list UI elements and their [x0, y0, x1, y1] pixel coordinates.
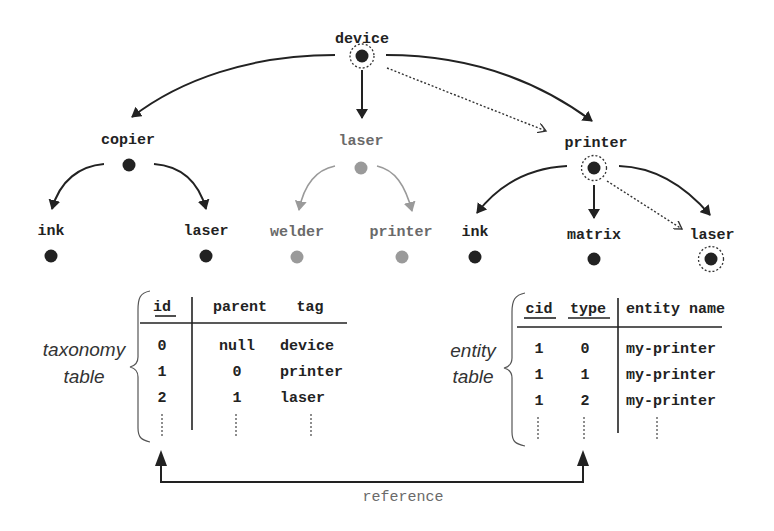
node-copier-laser — [200, 250, 213, 263]
entity-cell: my-printer — [626, 393, 716, 410]
entity-cell: 1 — [534, 341, 543, 358]
node-matrix — [588, 253, 601, 266]
taxonomy-table: taxonomy table id parent tag 0 null devi… — [43, 291, 347, 442]
taxonomy-cell: 1 — [232, 390, 241, 407]
node-welder — [291, 251, 304, 264]
edge-copier-laser — [154, 164, 206, 209]
taxonomy-caption-line1: taxonomy — [43, 339, 127, 360]
edge-printer-laser-dotted — [607, 181, 682, 229]
taxonomy-header-parent: parent — [213, 299, 267, 316]
edge-device-copier — [132, 55, 335, 117]
node-label-matrix: matrix — [567, 227, 621, 244]
taxonomy-cell: laser — [280, 390, 325, 407]
reference-arrowhead-entity — [577, 450, 589, 466]
entity-cell: my-printer — [626, 367, 716, 384]
node-label-copier-laser: laser — [183, 223, 228, 240]
edge-laser-welder — [299, 166, 335, 210]
entity-brace — [504, 293, 525, 446]
entity-cell: 0 — [580, 341, 589, 358]
taxonomy-cell: 0 — [232, 364, 241, 381]
node-label-copier-ink: ink — [37, 223, 64, 240]
node-copier — [123, 159, 136, 172]
taxonomy-diagram: device copier ink laser laser welder pri… — [0, 0, 774, 531]
node-printer-ink — [469, 251, 482, 264]
edge-printer-laser — [619, 166, 710, 215]
node-printer — [582, 156, 607, 181]
taxonomy-cell: 0 — [157, 338, 166, 355]
entity-cell: 1 — [534, 393, 543, 410]
reference-arrowhead-taxonomy — [155, 450, 167, 466]
node-laser-printer — [396, 251, 409, 264]
taxonomy-header-tag: tag — [296, 299, 323, 316]
taxonomy-cell: null — [219, 338, 255, 355]
reference-label: reference — [362, 489, 443, 506]
node-label-device: device — [335, 31, 389, 48]
entity-caption-line2: table — [452, 366, 493, 387]
node-printer-laser — [699, 247, 724, 272]
taxonomy-cell: 1 — [157, 364, 166, 381]
entity-cell: my-printer — [626, 341, 716, 358]
edge-laser-printer — [377, 166, 412, 211]
taxonomy-brace — [130, 291, 150, 442]
node-laser-muted — [355, 162, 368, 175]
node-copier-ink — [45, 250, 58, 263]
taxonomy-cell: printer — [280, 364, 343, 381]
entity-header-type: type — [570, 301, 606, 318]
edge-copier-ink — [52, 164, 104, 209]
taxonomy-cell: device — [280, 338, 334, 355]
entity-cell: 1 — [580, 367, 589, 384]
edge-printer-ink — [477, 166, 567, 213]
node-label-printer-laser: laser — [689, 227, 734, 244]
edge-device-printer-dotted — [387, 68, 546, 131]
node-label-printer-ink: ink — [461, 224, 488, 241]
edge-device-printer — [386, 55, 592, 121]
entity-caption-line1: entity — [450, 340, 497, 361]
taxonomy-caption-line2: table — [63, 366, 104, 387]
node-label-copier: copier — [101, 132, 155, 149]
node-label-printer: printer — [564, 135, 627, 152]
entity-header-cid: cid — [525, 301, 552, 318]
node-label-welder: welder — [270, 224, 324, 241]
node-label-laser-muted: laser — [338, 133, 383, 150]
taxonomy-cell: 2 — [157, 390, 166, 407]
entity-table: entity table cid type entity name 1 0 my… — [450, 293, 725, 446]
entity-cell: 2 — [580, 393, 589, 410]
reference-connector — [155, 450, 589, 482]
entity-cell: 1 — [534, 367, 543, 384]
node-label-laser-printer: printer — [369, 224, 432, 241]
entity-header-name: entity name — [626, 301, 725, 318]
taxonomy-header-id: id — [153, 299, 171, 316]
